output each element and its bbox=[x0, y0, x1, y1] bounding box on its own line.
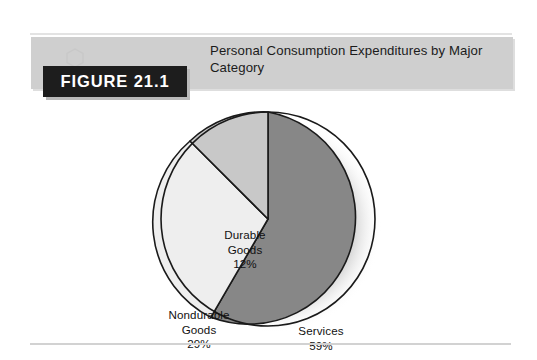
figure-label-text: FIGURE 21.1 bbox=[61, 72, 170, 91]
bottom-divider-rule bbox=[30, 343, 511, 345]
figure-page: FIGURE 21.1 Personal Consumption Expendi… bbox=[0, 0, 537, 360]
top-divider-rule bbox=[30, 33, 512, 35]
pie-label-durable-goods: Durable Goods 12% bbox=[210, 228, 280, 272]
pie-chart: Durable Goods 12% Nondurable Goods 29% S… bbox=[0, 100, 537, 340]
figure-label-box: FIGURE 21.1 bbox=[43, 66, 187, 97]
figure-title: Personal Consumption Expenditures by Maj… bbox=[210, 42, 506, 76]
pie-chart-svg bbox=[0, 100, 537, 340]
pie-label-nondurable-goods: Nondurable Goods 29% bbox=[156, 308, 242, 352]
pie-label-services: Services 59% bbox=[288, 324, 354, 353]
